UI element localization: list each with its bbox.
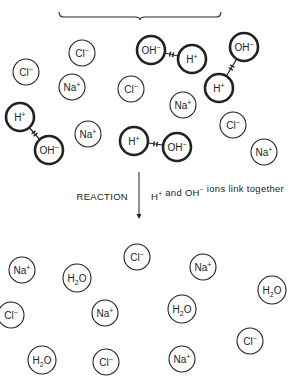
chloride-ion: Cl− — [124, 244, 150, 270]
sodium-ion: Na+ — [59, 74, 85, 100]
sodium-ion: Na+ — [190, 254, 216, 280]
water-molecule: H2O — [168, 295, 196, 323]
hydroxide-ion: OH− — [230, 33, 258, 61]
sodium-ion: Na+ — [170, 92, 196, 118]
sodium-ion: Na+ — [75, 121, 101, 147]
sodium-ion: Na+ — [9, 257, 35, 283]
reaction-arrow — [137, 172, 142, 219]
hydroxide-ion: OH− — [163, 133, 191, 161]
chloride-ion: Cl− — [93, 349, 119, 375]
bond-tick — [169, 52, 170, 57]
chloride-ion: Cl− — [118, 76, 144, 102]
hydrogen-ion: H+ — [205, 74, 233, 102]
chloride-ion: Cl− — [237, 328, 263, 354]
bond-tick — [154, 141, 155, 146]
water-molecule: H2O — [63, 264, 91, 292]
hydroxide-ion: OH− — [35, 136, 63, 164]
reaction-note: H+ and OH− ions link together — [151, 183, 284, 202]
hydrogen-ion: H+ — [178, 45, 206, 73]
chloride-ion: Cl− — [0, 302, 24, 328]
arrow-head-icon — [137, 214, 142, 219]
bond-tick — [172, 52, 173, 57]
water-molecule: H2O — [28, 346, 56, 374]
diagram-canvas: Cl−Cl−Na+Cl−OH−H+OH−H+Na+H+OH−Na+H+OH−Cl… — [0, 0, 297, 379]
bond-tick — [157, 142, 158, 147]
hydroxide-ion: OH− — [137, 36, 165, 64]
water-molecule: H2O — [258, 276, 286, 304]
reactant-ions: Cl−Cl−Na+Cl−OH−H+OH−H+Na+H+OH−Na+H+OH−Cl… — [6, 33, 277, 165]
sodium-ion: Na+ — [169, 346, 195, 372]
sodium-ion: Na+ — [251, 139, 277, 165]
hydrogen-ion: H+ — [120, 127, 148, 155]
chloride-ion: Cl− — [13, 59, 39, 85]
top-brace — [59, 12, 221, 20]
neutralization-diagram: Cl−Cl−Na+Cl−OH−H+OH−H+Na+H+OH−Na+H+OH−Cl… — [0, 0, 297, 379]
sodium-ion: Na+ — [92, 300, 118, 326]
hydrogen-ion: H+ — [6, 103, 34, 131]
product-ions: Na+H2OCl−Na+H2OCl−Na+H2OCl−H2OCl−Na+ — [0, 244, 286, 375]
chloride-ion: Cl− — [220, 112, 246, 138]
reaction-label: REACTION — [77, 191, 129, 202]
chloride-ion: Cl− — [69, 40, 95, 66]
